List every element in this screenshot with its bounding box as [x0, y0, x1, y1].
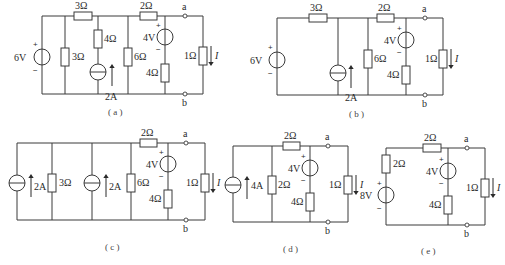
caption-a: ( a )	[108, 107, 123, 117]
svg-text:2Ω: 2Ω	[393, 158, 405, 169]
svg-text:4V: 4V	[143, 32, 156, 43]
svg-text:6V: 6V	[14, 52, 27, 63]
svg-text:4Ω: 4Ω	[387, 69, 399, 80]
voltage-source-4v: + − 4V	[426, 155, 456, 188]
svg-text:1Ω: 1Ω	[184, 50, 196, 61]
svg-text:6Ω: 6Ω	[374, 53, 386, 64]
caption-e: ( e )	[421, 246, 436, 256]
svg-text:I: I	[359, 179, 364, 190]
resistor-4ohm-vbranch	[164, 190, 172, 208]
svg-text:4V: 4V	[288, 163, 301, 174]
svg-text:I: I	[214, 50, 219, 61]
svg-text:+: +	[159, 148, 164, 157]
svg-text:4Ω: 4Ω	[146, 67, 158, 78]
svg-text:4Ω: 4Ω	[104, 33, 116, 44]
svg-text:a: a	[464, 133, 469, 144]
caption-d: ( d )	[283, 244, 298, 254]
svg-text:a: a	[183, 128, 188, 139]
svg-text:4Ω: 4Ω	[149, 193, 161, 204]
svg-text:2Ω: 2Ω	[284, 130, 296, 141]
svg-text:8V: 8V	[360, 190, 373, 201]
caption-b: ( b )	[349, 109, 364, 119]
svg-text:6V: 6V	[250, 55, 263, 66]
svg-text:1Ω: 1Ω	[466, 182, 478, 193]
svg-text:1Ω: 1Ω	[329, 179, 341, 190]
circuit-b: + − 6V 3Ω 2A 6Ω 2Ω + − 4V 4Ω a b	[250, 2, 459, 119]
resistor-1ohm-load	[201, 174, 209, 192]
terminal-b	[326, 220, 330, 224]
svg-text:3Ω: 3Ω	[310, 2, 322, 13]
terminal-b	[183, 92, 187, 96]
resistor-4ohm-vbranch	[444, 196, 452, 214]
current-source-2a	[330, 65, 346, 81]
svg-text:−: −	[268, 69, 273, 78]
svg-text:4V: 4V	[426, 166, 439, 177]
svg-text:a: a	[325, 131, 330, 142]
resistor-2ohm-series	[423, 144, 441, 152]
voltage-source-4v: + − 4V	[288, 152, 318, 185]
voltage-source-6v: + − 6V	[14, 40, 50, 75]
voltage-source-4v: + − 4V	[146, 148, 176, 181]
svg-text:3Ω: 3Ω	[75, 0, 87, 11]
circuit-figure: + − 6V 3Ω 3Ω 4Ω 2A 6Ω 2Ω +	[0, 0, 505, 265]
svg-text:2A: 2A	[105, 91, 118, 102]
resistor-3ohm-series	[309, 14, 327, 22]
svg-text:2A: 2A	[345, 92, 358, 103]
svg-text:−: −	[377, 204, 382, 213]
resistor-6ohm	[124, 48, 132, 66]
svg-text:4Ω: 4Ω	[429, 199, 441, 210]
resistor-3ohm-parallel	[48, 174, 56, 192]
svg-text:1Ω: 1Ω	[425, 53, 437, 64]
terminal-b	[423, 93, 427, 97]
svg-text:−: −	[439, 179, 444, 188]
resistor-4ohm-vbranch	[161, 64, 169, 82]
svg-text:2Ω: 2Ω	[424, 132, 436, 143]
terminal-a	[423, 16, 427, 20]
svg-text:−: −	[33, 66, 38, 75]
terminal-a	[183, 14, 187, 18]
svg-text:4V: 4V	[384, 35, 397, 46]
svg-text:6Ω: 6Ω	[137, 177, 149, 188]
resistor-2ohm-series	[140, 139, 157, 147]
resistor-4ohm-vbranch	[402, 66, 410, 84]
terminal-a	[184, 141, 188, 145]
voltage-source-8v: + − 8V	[360, 179, 394, 213]
resistor-2ohm-left	[382, 155, 390, 173]
svg-text:−: −	[397, 48, 402, 57]
svg-text:3Ω: 3Ω	[72, 51, 84, 62]
svg-text:4A: 4A	[251, 180, 264, 191]
svg-text:2A: 2A	[34, 181, 47, 192]
svg-text:2Ω: 2Ω	[141, 127, 153, 138]
terminal-a	[326, 144, 330, 148]
resistor-2ohm-series	[283, 142, 300, 150]
terminal-b	[465, 223, 469, 227]
resistor-2ohm-series	[377, 14, 394, 22]
svg-text:b: b	[183, 223, 188, 234]
svg-text:a: a	[182, 1, 187, 12]
terminal-b	[184, 218, 188, 222]
svg-text:+: +	[439, 155, 444, 164]
resistor-6ohm	[127, 174, 135, 192]
svg-text:3Ω: 3Ω	[59, 177, 71, 188]
caption-c: ( c )	[105, 242, 120, 252]
svg-text:b: b	[422, 98, 427, 109]
circuit-a: + − 6V 3Ω 3Ω 4Ω 2A 6Ω 2Ω +	[14, 0, 219, 117]
svg-text:a: a	[422, 3, 427, 14]
svg-text:6Ω: 6Ω	[134, 51, 146, 62]
svg-text:+: +	[268, 43, 273, 52]
resistor-4ohm-vbranch	[306, 193, 314, 211]
resistor-1ohm-load	[439, 50, 447, 68]
resistor-3ohm-parallel	[61, 48, 69, 66]
svg-text:−: −	[301, 176, 306, 185]
circuit-c: 2A 3Ω 2A 6Ω 2Ω + − 4V 4Ω a b 1Ω I	[9, 127, 221, 252]
svg-text:−: −	[159, 172, 164, 181]
circuit-e: 2Ω + − 8V 2Ω + − 4V 4Ω a b 1Ω I ( e )	[360, 132, 501, 256]
resistor-1ohm-load	[481, 179, 489, 197]
resistor-2ohm-shunt	[268, 176, 276, 194]
svg-text:b: b	[325, 225, 330, 236]
svg-text:2Ω: 2Ω	[378, 2, 390, 13]
voltage-source-4v: + − 4V	[384, 24, 414, 57]
current-source-4a	[225, 177, 241, 193]
resistor-6ohm	[364, 50, 372, 68]
svg-text:b: b	[464, 228, 469, 239]
